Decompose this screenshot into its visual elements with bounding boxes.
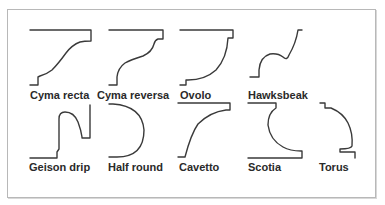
scotia-profile: [248, 103, 302, 158]
label-torus: Torus: [319, 161, 349, 173]
ovolo-profile: [180, 30, 233, 85]
label-geison-drip: Geison drip: [29, 161, 90, 173]
cyma-reversa-profile: [109, 30, 163, 85]
cavetto-profile: [178, 103, 230, 157]
label-cavetto: Cavetto: [179, 161, 219, 173]
hawksbeak-profile: [250, 30, 302, 77]
geison-drip-profile: [30, 105, 90, 158]
label-ovolo: Ovolo: [180, 89, 211, 101]
label-half-round: Half round: [108, 161, 163, 173]
label-cyma-reversa: Cyma reversa: [97, 89, 169, 101]
half-round-profile: [109, 104, 144, 157]
label-cyma-recta: Cyma recta: [30, 89, 89, 101]
label-scotia: Scotia: [248, 161, 281, 173]
moulding-profiles-canvas: [0, 0, 385, 205]
label-hawksbeak: Hawksbeak: [248, 89, 308, 101]
cyma-recta-profile: [30, 30, 91, 85]
torus-profile: [320, 103, 355, 158]
